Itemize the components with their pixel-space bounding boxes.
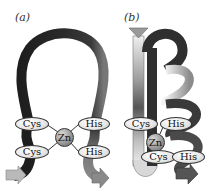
zinc-finger-diagram [0, 0, 211, 192]
panel-a-his-bottom: His [78, 145, 110, 159]
panel-b-cys-bottom: Cys [141, 150, 176, 164]
panel-a-his-top: His [78, 117, 110, 131]
panel-b-label: (b) [124, 11, 140, 24]
panel-b-his-bottom: His [172, 150, 205, 164]
panel-a-ribbon [6, 33, 109, 188]
panel-a-cys-top: Cys [15, 117, 49, 131]
panel-a-cys-bottom: Cys [15, 145, 49, 159]
panel-b-cys-top: Cys [124, 117, 158, 131]
panel-a-label: (a) [15, 11, 30, 24]
panel-b-his-top: His [160, 117, 192, 131]
panel-a-zinc-ion: Zn [55, 128, 74, 147]
